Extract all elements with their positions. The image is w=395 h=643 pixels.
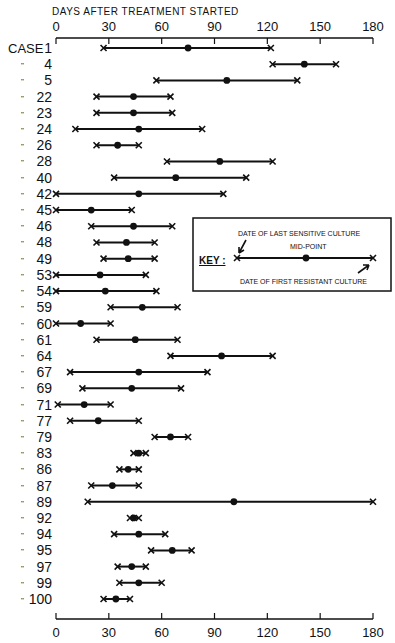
midpoint-dot: [301, 61, 308, 68]
case-number: 24: [36, 121, 52, 137]
case-number: 92: [36, 510, 52, 526]
case-number: 95: [36, 542, 52, 558]
axis-tick-label: 120: [256, 19, 278, 34]
axis-tick-label: 60: [154, 625, 168, 640]
midpoint-dot: [135, 369, 142, 376]
ditto-mark: ": [21, 94, 24, 103]
case-number: 53: [36, 267, 52, 283]
case-number: 89: [36, 494, 52, 510]
ditto-mark: ": [21, 304, 24, 313]
midpoint-dot: [102, 288, 109, 295]
case-number: 79: [36, 429, 52, 445]
midpoint-dot: [97, 271, 104, 278]
ditto-mark: ": [21, 223, 24, 232]
legend-midpoint-dot: [303, 255, 310, 262]
case-number: 4: [44, 56, 52, 72]
ditto-mark: ": [21, 110, 24, 119]
ditto-mark: ": [21, 385, 24, 394]
case-number: 83: [36, 445, 52, 461]
case-number: 5: [44, 72, 52, 88]
case-number: 99: [36, 575, 52, 591]
midpoint-dot: [81, 401, 88, 408]
case-number: 48: [36, 234, 52, 250]
case-number: 87: [36, 478, 52, 494]
case-number: 77: [36, 413, 52, 429]
ditto-mark: ": [21, 353, 24, 362]
midpoint-dot: [109, 482, 116, 489]
ditto-mark: ": [21, 369, 24, 378]
case-number: 45: [36, 202, 52, 218]
case-number: 67: [36, 364, 52, 380]
midpoint-dot: [185, 45, 192, 52]
case-number: 46: [36, 218, 52, 234]
axis-tick-label: 30: [102, 625, 116, 640]
ditto-mark: ": [21, 288, 24, 297]
axis-tick-label: 60: [154, 19, 168, 34]
case-number: 71: [36, 397, 52, 413]
midpoint-dot: [114, 142, 121, 149]
case-number: 69: [36, 380, 52, 396]
midpoint-dot: [125, 466, 132, 473]
case-number: 86: [36, 461, 52, 477]
case-number: 49: [36, 251, 52, 267]
case-number: 22: [36, 89, 52, 105]
midpoint-dot: [77, 320, 84, 327]
legend-start-label: DATE OF LAST SENSITIVE CULTURE: [238, 230, 360, 237]
midpoint-dot: [123, 239, 130, 246]
midpoint-dot: [112, 596, 119, 603]
midpoint-dot: [135, 579, 142, 586]
legend-mid-label: MID-POINT: [290, 243, 327, 250]
midpoint-dot: [130, 93, 137, 100]
ditto-mark: ": [21, 483, 24, 492]
ditto-mark: ": [21, 337, 24, 346]
axis-tick-label: 180: [362, 625, 384, 640]
ditto-mark: ": [21, 547, 24, 556]
midpoint-dot: [167, 434, 174, 441]
ditto-mark: ": [21, 402, 24, 411]
midpoint-dot: [169, 547, 176, 554]
midpoint-dot: [125, 255, 132, 262]
midpoint-dot: [135, 450, 142, 457]
midpoint-dot: [128, 563, 135, 570]
axis-tick-label: 30: [102, 19, 116, 34]
case-number: 94: [36, 526, 52, 542]
midpoint-dot: [223, 77, 230, 84]
axis-tick-label: 180: [362, 19, 384, 34]
ditto-mark: ": [21, 61, 24, 70]
midpoint-dot: [230, 498, 237, 505]
ditto-mark: ": [21, 418, 24, 427]
ditto-mark: ": [21, 499, 24, 508]
axis-tick-label: 0: [52, 625, 59, 640]
midpoint-dot: [128, 385, 135, 392]
ditto-mark: ": [21, 239, 24, 248]
case-number: 100: [29, 591, 53, 607]
midpoint-dot: [132, 336, 139, 343]
ditto-mark: ": [21, 191, 24, 200]
ditto-mark: ": [21, 77, 24, 86]
ditto-mark: ": [21, 158, 24, 167]
case-number: 42: [36, 186, 52, 202]
ditto-mark: ": [21, 434, 24, 443]
range-chart: 03060901201501800306090120150180CASE1"4"…: [0, 0, 395, 643]
midpoint-dot: [216, 158, 223, 165]
ditto-mark: ": [21, 466, 24, 475]
case-number: 40: [36, 170, 52, 186]
case-number: 1: [44, 40, 52, 56]
ditto-mark: ": [21, 596, 24, 605]
case-number: 60: [36, 316, 52, 332]
case-prefix: CASE: [8, 41, 44, 56]
case-number: 97: [36, 559, 52, 575]
axis-tick-label: 120: [256, 625, 278, 640]
case-number: 23: [36, 105, 52, 121]
case-number: 64: [36, 348, 52, 364]
ditto-mark: ": [21, 207, 24, 216]
midpoint-dot: [135, 126, 142, 133]
midpoint-dot: [88, 207, 95, 214]
case-number: 26: [36, 137, 52, 153]
midpoint-dot: [172, 174, 179, 181]
midpoint-dot: [218, 353, 225, 360]
midpoint-dot: [130, 515, 137, 522]
ditto-mark: ": [21, 175, 24, 184]
axis-tick-label: 150: [309, 625, 331, 640]
case-number: 61: [36, 332, 52, 348]
